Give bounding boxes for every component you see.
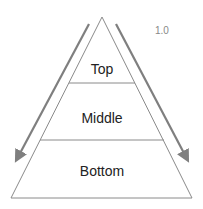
level-bottom-label: Bottom	[72, 163, 132, 179]
left-down-arrow-icon	[18, 24, 89, 157]
version-label: 1.0	[155, 25, 169, 36]
level-middle-label: Middle	[72, 110, 132, 126]
level-top-label: Top	[82, 61, 122, 77]
pyramid-diagram: 1.0 Top Middle Bottom	[0, 0, 203, 209]
right-down-arrow-icon	[116, 24, 186, 157]
